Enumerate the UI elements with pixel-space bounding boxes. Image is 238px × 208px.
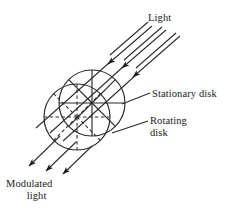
beam-path-2 — [50, 66, 124, 133]
stationary-disk — [59, 70, 125, 136]
beam-through-disks — [36, 62, 137, 141]
label-rotating-disk-line2: disk — [150, 127, 168, 138]
label-modulated-light-line2: light — [6, 190, 52, 202]
stationary-disk-leader — [122, 93, 150, 104]
incoming-light-beams — [108, 22, 180, 77]
label-rotating-disk: Rotating disk — [150, 115, 187, 138]
incoming-beam-tail-2 — [124, 27, 162, 60]
optical-chopper-figure: Light Stationary disk Rotating disk Modu… — [0, 0, 238, 208]
rotating-disk — [44, 84, 110, 150]
stationary-disk-spokes — [59, 70, 125, 136]
label-rotating-disk-line1: Rotating — [150, 115, 187, 126]
label-light: Light — [148, 12, 171, 24]
label-modulated-light: Modulated light — [6, 178, 52, 201]
rotating-disk-spokes — [44, 84, 110, 150]
label-modulated-light-line1: Modulated — [6, 178, 52, 189]
incoming-beam-3 — [133, 36, 180, 77]
figure-drawing — [0, 0, 238, 208]
incoming-beam-2 — [122, 30, 166, 68]
rotating-disk-leader — [112, 121, 148, 133]
label-stationary-disk: Stationary disk — [152, 88, 217, 100]
callout-leader-lines — [112, 93, 150, 133]
outgoing-modulated-beams — [29, 136, 92, 174]
incoming-beam-1 — [108, 26, 152, 64]
